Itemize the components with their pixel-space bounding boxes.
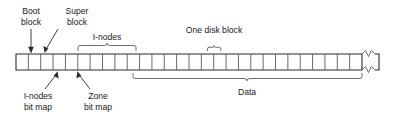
data-brace (133, 73, 362, 81)
inodes-bit-map-pointer (45, 71, 59, 89)
disk-layout-diagram: Boot block Super block I-nodes One disk … (0, 0, 394, 125)
super-block-label-line2: block (67, 17, 88, 27)
boot-block-label: Boot block (21, 6, 42, 27)
inodes-label: I-nodes (93, 32, 122, 42)
zone-bit-map-label-line1: Zone (88, 91, 108, 101)
data-label: Data (238, 87, 256, 97)
one-disk-block-label: One disk block (186, 25, 243, 35)
super-block-label-line1: Super (66, 6, 89, 16)
disk-bar (16, 51, 379, 73)
inodes-bit-map-label-line2: bit map (24, 102, 52, 112)
diagram-canvas: Boot block Super block I-nodes One disk … (0, 0, 394, 125)
inodes-bit-map-label: I-nodes bit map (24, 91, 53, 112)
boot-block-pointer (28, 29, 34, 54)
super-block-label: Super block (66, 6, 89, 27)
bar-break-symbol (362, 51, 379, 73)
boot-block-label-line1: Boot (22, 6, 40, 16)
zone-bit-map-pointer (76, 71, 90, 89)
one-disk-block-brace (208, 46, 221, 51)
boot-block-label-line2: block (21, 17, 42, 27)
inodes-bit-map-label-line1: I-nodes (24, 91, 53, 101)
zone-bit-map-label-line2: bit map (84, 102, 112, 112)
zone-bit-map-label: Zone bit map (84, 91, 112, 112)
inodes-brace (78, 43, 136, 51)
super-block-pointer (43, 29, 58, 53)
